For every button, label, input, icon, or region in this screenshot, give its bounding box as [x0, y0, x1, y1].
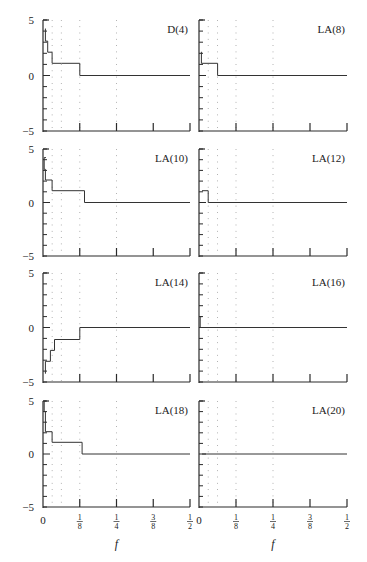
panel-la8: LA(8)	[199, 20, 347, 132]
x-tick-label: 38	[150, 513, 156, 531]
y-tick-label: 5	[29, 267, 35, 279]
step-curve	[200, 317, 347, 328]
x-tick-label: 0	[196, 514, 202, 526]
svg-text:8: 8	[234, 522, 238, 531]
step-curve	[44, 158, 190, 203]
svg-text:1: 1	[234, 513, 238, 522]
step-curve	[45, 29, 190, 76]
panel-la20: LA(20)018143812f	[196, 401, 350, 551]
y-tick-label: −5	[22, 376, 34, 388]
x-tick-label: 14	[114, 513, 120, 531]
svg-text:8: 8	[308, 522, 312, 531]
y-tick-label: 0	[29, 322, 35, 334]
panel-title: D(4)	[167, 23, 188, 36]
panel-la14: LA(14)50−5	[22, 267, 190, 388]
panel-title: LA(14)	[155, 276, 188, 289]
step-curve	[201, 52, 347, 75]
y-tick-label: −5	[22, 125, 34, 137]
panel-title: LA(12)	[312, 152, 345, 165]
x-tick-label: 14	[270, 513, 276, 531]
y-tick-label: 5	[29, 395, 35, 407]
x-tick-label: 18	[77, 513, 83, 531]
svg-text:1: 1	[188, 513, 192, 522]
panel-title: LA(16)	[312, 276, 345, 289]
panel-title: LA(8)	[318, 23, 346, 36]
x-axis-label: f	[271, 537, 276, 551]
svg-text:3: 3	[308, 513, 312, 522]
y-tick-label: 0	[29, 70, 35, 82]
svg-text:3: 3	[151, 513, 155, 522]
svg-text:2: 2	[188, 522, 192, 531]
x-axis-label: f	[115, 537, 120, 551]
y-tick-label: 0	[29, 448, 35, 460]
panel-la16: LA(16)	[199, 273, 347, 383]
x-tick-label: 12	[344, 513, 350, 531]
svg-text:4: 4	[115, 522, 119, 531]
x-tick-label: 12	[187, 513, 193, 531]
svg-text:1: 1	[345, 513, 349, 522]
panel-title: LA(18)	[155, 404, 188, 417]
svg-text:1: 1	[115, 513, 119, 522]
y-tick-label: 0	[29, 197, 35, 209]
svg-text:1: 1	[78, 513, 82, 522]
y-tick-label: −5	[22, 501, 34, 513]
svg-text:8: 8	[151, 522, 155, 531]
panel-la18: LA(18)50−5018143812f	[22, 395, 193, 551]
panel-title: LA(10)	[155, 152, 188, 165]
x-tick-label: 18	[233, 513, 239, 531]
y-tick-label: −5	[22, 250, 34, 262]
panel-d4: D(4)50−5	[22, 14, 190, 137]
panel-la10: LA(10)50−5	[22, 143, 190, 262]
svg-text:2: 2	[345, 522, 349, 531]
y-tick-label: 5	[29, 14, 35, 26]
x-tick-label: 38	[307, 513, 313, 531]
svg-text:8: 8	[78, 522, 82, 531]
svg-text:4: 4	[271, 522, 275, 531]
panel-title: LA(20)	[312, 404, 345, 417]
x-tick-label: 0	[40, 514, 46, 526]
svg-text:1: 1	[271, 513, 275, 522]
figure: D(4)50−5LA(8)LA(10)50−5LA(12)LA(14)50−5L…	[0, 0, 367, 562]
y-tick-label: 5	[29, 143, 35, 155]
step-curve	[45, 328, 190, 374]
step-curve	[202, 191, 347, 203]
panel-la12: LA(12)	[199, 149, 347, 257]
